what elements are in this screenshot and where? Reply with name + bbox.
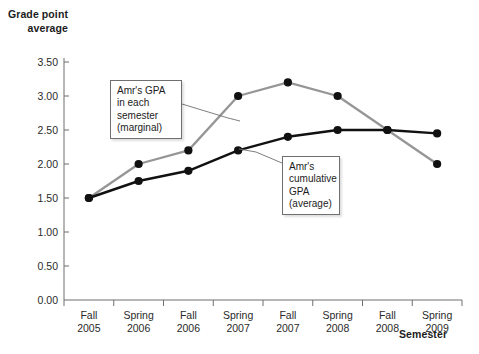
data-point <box>184 146 192 154</box>
annotation-cumulative-line-4: (average) <box>289 198 334 210</box>
data-point <box>284 133 292 141</box>
annotation-cumulative-line-3: GPA <box>289 186 334 198</box>
data-point <box>85 194 93 202</box>
annotation-cumulative-line-1: Amr's <box>289 161 334 173</box>
annotation-marginal-gpa: Amr's GPA in each semester (marginal) <box>110 80 182 139</box>
data-point <box>234 92 242 100</box>
data-point <box>284 78 292 86</box>
data-point <box>433 129 441 137</box>
annotation-marginal-line-1: Amr's GPA <box>117 85 176 97</box>
data-point <box>383 126 391 134</box>
plot-area <box>0 0 479 354</box>
data-point <box>334 126 342 134</box>
annotation-marginal-line-2: in each <box>117 97 176 109</box>
data-point <box>334 92 342 100</box>
data-point <box>184 167 192 175</box>
data-point <box>234 146 242 154</box>
annotation-marginal-line-4: (marginal) <box>117 122 176 134</box>
annotation-cumulative-line-2: cumulative <box>289 173 334 185</box>
annotation-cumulative-gpa: Amr's cumulative GPA (average) <box>282 156 340 215</box>
annotation-marginal-line-3: semester <box>117 110 176 122</box>
chart-figure: Grade point average Semester 0.000.501.0… <box>0 0 479 354</box>
data-point <box>135 177 143 185</box>
data-point <box>433 160 441 168</box>
data-point <box>135 160 143 168</box>
